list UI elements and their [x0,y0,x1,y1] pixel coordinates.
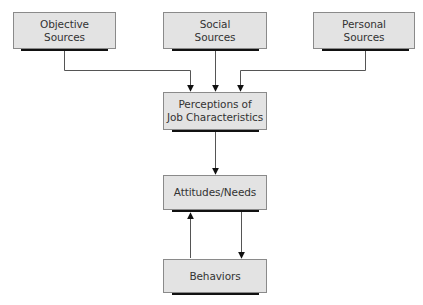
node-behaviors: Behaviors [163,259,267,293]
node-label: Behaviors [189,270,240,283]
node-social-sources: Social Sources [163,12,267,49]
node-label: Objective Sources [40,18,89,44]
node-label: Perceptions of Job Characteristics [167,98,263,124]
edge-personal-to-perceptions [241,51,366,91]
node-label: Personal Sources [342,18,386,44]
edge-objective-to-perceptions [65,51,191,91]
node-objective-sources: Objective Sources [13,12,116,49]
node-attitudes-needs: Attitudes/Needs [163,175,267,210]
node-label: Social Sources [195,18,236,44]
node-label: Attitudes/Needs [174,186,256,199]
node-perceptions: Perceptions of Job Characteristics [163,92,267,130]
node-personal-sources: Personal Sources [313,12,415,49]
